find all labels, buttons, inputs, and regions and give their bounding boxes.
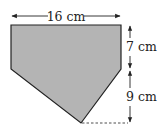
rect-height-dimension: 7 cm <box>126 26 157 68</box>
pentagon-shape <box>11 25 121 123</box>
rect-height-label: 7 cm <box>126 39 157 54</box>
width-dimension: 16 cm <box>12 9 120 24</box>
triangle-height-dimension: 9 cm <box>126 71 157 122</box>
triangle-height-label: 9 cm <box>126 89 157 104</box>
pentagon-diagram: 16 cm 7 cm 9 cm <box>0 0 168 133</box>
width-label: 16 cm <box>47 9 86 24</box>
